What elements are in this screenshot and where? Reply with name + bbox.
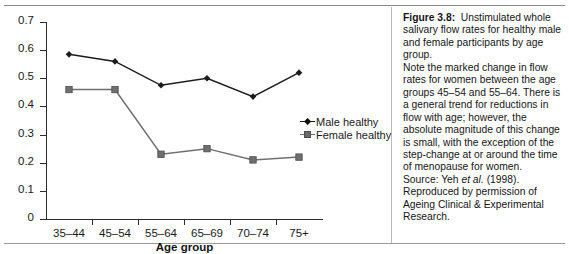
caption-text-2: Note the marked change in flow rates for…: [403, 62, 560, 173]
chart-legend: Male healthy Female healthy: [300, 115, 391, 141]
data-point-female-healthy-5: [296, 154, 302, 160]
data-point-male-healthy-4: [250, 93, 257, 100]
y-tick-label: 0.4: [18, 98, 34, 110]
data-point-male-healthy-1: [112, 58, 119, 65]
x-axis-label-2: 55–64: [145, 227, 177, 239]
caption-paragraph-1: Figure 3.8: Unstimulated whole salivary …: [403, 12, 563, 62]
caption-paragraph-2: Note the marked change in flow rates for…: [403, 62, 563, 174]
x-tick-5: [276, 219, 277, 225]
caption-figure-label: Figure 3.8:: [403, 12, 455, 23]
x-tick-4: [230, 219, 231, 225]
x-tick-1: [92, 219, 93, 225]
x-tick-3: [184, 219, 185, 225]
data-point-male-healthy-3: [204, 75, 211, 82]
series-svg: [46, 22, 322, 219]
caption-source-prefix: Source: Yeh: [403, 174, 459, 185]
data-point-female-healthy-3: [204, 145, 210, 151]
caption-source: Source: Yeh et al. (1998).: [403, 174, 563, 186]
y-tick-mark: [40, 219, 46, 220]
data-point-male-healthy-0: [66, 51, 73, 58]
x-axis-label-3: 65–69: [191, 227, 223, 239]
series-line-female-healthy: [69, 90, 299, 160]
y-tick-label: 0.7: [18, 14, 34, 26]
plot-area: [46, 22, 322, 219]
square-marker-icon: [304, 131, 311, 138]
y-tick-label: 0.3: [18, 127, 34, 139]
x-tick-2: [138, 219, 139, 225]
legend-label-female: Female healthy: [316, 129, 391, 141]
data-point-female-healthy-1: [112, 86, 118, 92]
x-axis-label-5: 75+: [289, 227, 309, 239]
y-tick-label: 0: [28, 211, 34, 223]
legend-item-male: Male healthy: [300, 115, 391, 128]
data-point-female-healthy-0: [66, 86, 72, 92]
figure-caption: Figure 3.8: Unstimulated whole salivary …: [403, 12, 563, 224]
caption-source-suffix: (1998).: [487, 174, 520, 185]
x-axis-label-4: 70–74: [237, 227, 269, 239]
data-point-male-healthy-5: [296, 69, 303, 76]
line-chart: Flow rate (ml min−1) 00.10.20.30.40.50.6…: [0, 6, 391, 246]
diamond-marker-icon: [304, 118, 311, 125]
caption-source-italic: et al.: [461, 174, 483, 185]
figure-container: Flow rate (ml min−1) 00.10.20.30.40.50.6…: [0, 0, 569, 254]
caption-permission: Reproduced by permission of Ageing Clini…: [403, 186, 563, 223]
data-point-female-healthy-4: [250, 157, 256, 163]
data-point-male-healthy-2: [158, 82, 165, 89]
data-point-female-healthy-2: [158, 151, 164, 157]
y-tick-label: 0.1: [18, 183, 34, 195]
y-tick-label: 0.2: [18, 155, 34, 167]
x-axis-title: Age group: [46, 241, 323, 253]
y-tick-label: 0.5: [18, 70, 34, 82]
y-tick-label: 0.6: [18, 42, 34, 54]
x-axis-label-1: 45–54: [99, 227, 131, 239]
legend-item-female: Female healthy: [300, 128, 391, 141]
x-axis-label-0: 35–44: [53, 227, 85, 239]
legend-label-male: Male healthy: [316, 116, 378, 128]
